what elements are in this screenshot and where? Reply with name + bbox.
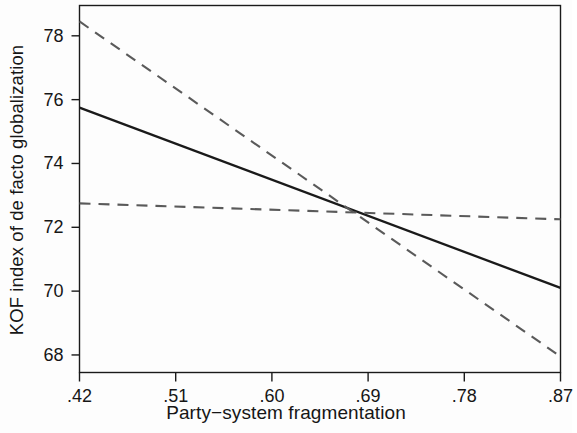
y-tick-label-70: 70 bbox=[30, 281, 64, 302]
x-tick-label-87: .87 bbox=[531, 386, 577, 407]
y-axis-title: KOF index of de facto globalization bbox=[6, 45, 28, 335]
y-axis-title-container: KOF index of de facto globalization bbox=[0, 0, 34, 380]
x-tick-label-78: .78 bbox=[434, 386, 494, 407]
series-fitted-line bbox=[80, 108, 561, 288]
x-tick-label-51: .51 bbox=[146, 386, 206, 407]
series-lower-confidence-bound bbox=[80, 203, 561, 219]
y-tick-label-74: 74 bbox=[30, 153, 64, 174]
y-tick-label-72: 72 bbox=[30, 217, 64, 238]
x-tick-label-69: .69 bbox=[338, 386, 398, 407]
x-tick-label-60: .60 bbox=[242, 386, 302, 407]
y-tick-label-68: 68 bbox=[30, 344, 64, 365]
y-tick-label-76: 76 bbox=[30, 89, 64, 110]
x-tick-label-42: .42 bbox=[50, 386, 110, 407]
data-series-layer bbox=[80, 21, 561, 356]
series-upper-confidence-bound bbox=[80, 21, 561, 356]
y-tick-label-78: 78 bbox=[30, 25, 64, 46]
axis-tick-marks bbox=[72, 36, 561, 382]
